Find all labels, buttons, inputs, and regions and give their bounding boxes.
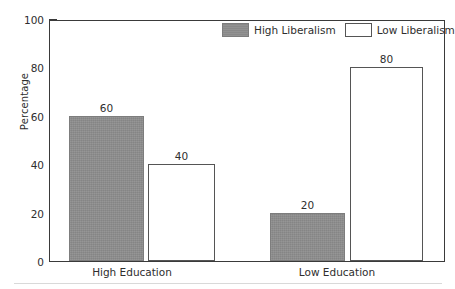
- legend-entry-high-liberalism[interactable]: High Liberalism: [222, 23, 336, 37]
- y-tick-label: 100: [0, 13, 44, 27]
- legend-label: Low Liberalism: [377, 24, 455, 36]
- plot-area: 60 40 20 80: [49, 20, 445, 262]
- x-axis-label-high-education: High Education: [72, 266, 192, 278]
- bar-high-education-low-liberalism[interactable]: 40: [148, 164, 215, 261]
- y-tick-label: 60: [0, 110, 44, 124]
- legend-swatch-filled-icon: [222, 23, 249, 37]
- y-axis-title: Percentage: [19, 42, 30, 162]
- bar-value-label: 80: [380, 53, 393, 65]
- bar-value-label: 40: [175, 150, 188, 162]
- y-tick-label: 80: [0, 61, 44, 75]
- y-tick-label: 20: [0, 207, 44, 221]
- legend: High Liberalism Low Liberalism: [222, 23, 455, 37]
- bar-low-education-high-liberalism[interactable]: 20: [270, 213, 345, 261]
- bar-low-education-low-liberalism[interactable]: 80: [350, 67, 423, 261]
- bar-chart-figure: Percentage 100 80 60 40 20 0: [0, 0, 455, 289]
- bottom-divider: [14, 283, 442, 284]
- bar-high-education-high-liberalism[interactable]: 60: [69, 116, 144, 261]
- y-tick-label: 40: [0, 158, 44, 172]
- y-tick-label: 0: [0, 255, 44, 269]
- bar-value-label: 60: [100, 102, 113, 114]
- legend-label: High Liberalism: [254, 24, 336, 36]
- legend-entry-low-liberalism[interactable]: Low Liberalism: [345, 23, 455, 37]
- legend-swatch-hollow-icon: [345, 23, 372, 37]
- bar-value-label: 20: [301, 199, 314, 211]
- x-axis-label-low-education: Low Education: [277, 266, 397, 278]
